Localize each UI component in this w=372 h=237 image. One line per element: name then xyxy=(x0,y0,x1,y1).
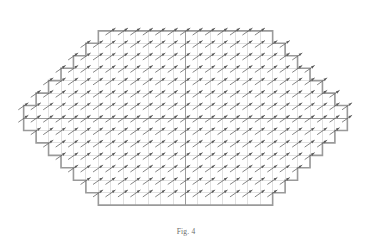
figure-caption: Fig. 4 xyxy=(0,227,372,237)
vector-field-plot xyxy=(0,0,372,237)
figure-container: Fig. 4 xyxy=(0,0,372,237)
